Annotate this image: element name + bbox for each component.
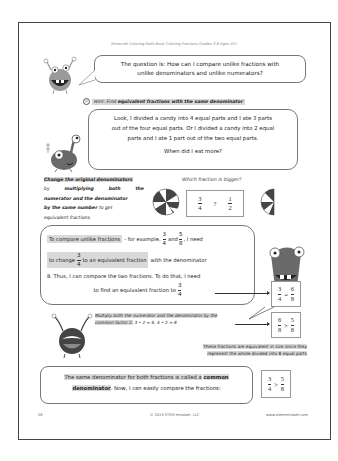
running-head: Minecraft Coloring Math Book Coloring Fr… [19,42,330,46]
side-note-word: the [135,184,144,193]
multiply-line-2: common factor 2. [95,320,133,325]
which-bigger-caption: Which fraction is bigger? [182,177,242,182]
side-note-line-5: equivalent fractions. [44,213,144,222]
monster-cheering-icon [39,56,81,96]
fraction-5-8: 58 [179,232,183,246]
multiply-math: 3 • 2 = 6, 4 • 2 = 8 [135,320,177,325]
equivalent-line-1: These fractions are equivalent in size s… [203,344,307,349]
compare-highlight-2: to an equivalent fraction [83,257,147,263]
fraction-3-4: 34 [278,286,281,302]
side-note-word: by [44,184,50,193]
compare-text-end: , I need [183,236,202,242]
candy-line-3: parts and I ate 1 part out of the two eq… [89,133,297,143]
greater-box-2: 34 > 58 [261,370,291,398]
fraction-3-4: 34 [178,283,182,297]
common-line-1: The same denominator for both fractions … [64,374,201,380]
page-frame: Minecraft Coloring Math Book Coloring Fr… [18,22,331,440]
side-note-word: both [109,184,121,193]
common-denominator-bubble: The same denominator for both fractions … [40,366,253,404]
candy-line-1: Look, I divided a candy into 4 equal par… [89,113,297,123]
hint-bold: equivalent fractions with the same denom… [118,99,243,104]
fraction-6-8: 68 [278,317,281,333]
question-line-1: The question is: How can I compare unlik… [95,60,305,69]
fraction-5-8: 58 [281,376,284,392]
common-line-2: . Now, I can easily compare the fraction… [111,385,221,391]
question-line-2: unlike denominators and unlike numerator… [95,69,305,78]
monster-eyestalk-icon [43,133,85,173]
side-note-line-4b: to get [99,205,113,210]
hint-text: Find [106,99,116,104]
equivalent-box: 34 = 68 [271,281,301,307]
arrow-head [267,322,270,326]
candy-line-2: out of the four equal parts. Or I divide… [89,123,297,133]
side-note-word: multiplying [64,184,93,193]
question-speech-bubble: The question is: How can I compare unlik… [94,55,306,83]
candy-swirl-full-icon [151,187,181,217]
equals-symbol: = [284,291,288,298]
website-link[interactable]: www.stemmindset.com [266,413,308,417]
side-note-line-4: by the same number [44,205,97,210]
compare-line-4: to find an equivalent fraction to [94,287,176,293]
compare-and: and [168,236,178,242]
compare-line-3: 8. Thus, I can compare the two fractions… [47,273,248,279]
side-note-line-3: numerator and the denominator [44,196,128,201]
common-bold: common [203,374,228,380]
compare-highlight-1: To compare unlike fractions [47,235,122,243]
bubble-tail [77,68,97,88]
arrow-head [267,291,270,295]
fraction-5-8: 58 [291,317,294,333]
candy-question: When did I eat more? [89,146,297,156]
equivalent-line-2: represent the whole divided into 8 equal… [207,351,307,356]
arrow-to-greater [235,324,269,325]
greater-symbol: > [284,322,288,329]
compare-text: - for example, [124,236,160,242]
multiply-line-1: Multiply both the numerator and the deno… [95,313,217,318]
smiley-icon: ☺ [83,98,90,105]
fraction-one-half: 12 [228,196,231,212]
which-bigger-box: 34 ? 12 [186,190,244,217]
fraction-3-4: 34 [77,253,81,267]
greater-box-1: 68 > 58 [271,312,301,338]
candy-speech-bubble: Look, I divided a candy into 4 equal par… [88,109,298,170]
greater-symbol: > [274,381,278,388]
side-note-bold: Change the original denominators [44,177,133,182]
compare-change: to change [49,257,75,263]
compare-text-2: with the denominator [150,257,206,263]
hint-row: ☺ Hint: Find equivalent fractions with t… [83,98,245,105]
fraction-3-4: 34 [163,232,167,246]
side-note: Change the original denominators by mult… [44,175,144,222]
fraction-6-8: 68 [291,286,294,302]
fraction-three-fourths: 34 [198,196,201,212]
question-symbol: ? [214,200,217,207]
fraction-3-4: 34 [268,376,271,392]
denominator-bold: denominator [72,385,110,391]
equivalent-note: These fractions are equivalent in size s… [147,343,307,358]
hint-prefix: Hint: [94,99,105,104]
candy-swirl-half-icon [259,187,275,217]
arrow-to-equivalent [215,293,269,294]
monster-antennae-icon [51,311,93,359]
